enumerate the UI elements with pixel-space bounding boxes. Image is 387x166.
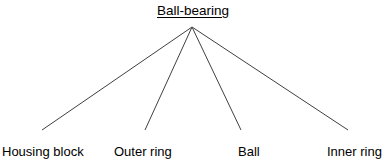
connector-line-inner-ring <box>192 27 348 130</box>
ball-bearing-hierarchy-diagram: Ball-bearing Housing block Outer ring Ba… <box>0 0 387 166</box>
connector-line-ball <box>192 27 241 130</box>
leaf-node-ball: Ball <box>238 144 260 159</box>
leaf-node-outer-ring: Outer ring <box>114 144 172 159</box>
tree-connector-lines <box>0 0 387 166</box>
root-node-label: Ball-bearing <box>157 3 229 18</box>
connector-line-housing-block <box>42 27 192 130</box>
leaf-node-housing-block: Housing block <box>2 144 84 159</box>
leaf-node-inner-ring: Inner ring <box>327 144 382 159</box>
connector-line-outer-ring <box>145 27 192 130</box>
